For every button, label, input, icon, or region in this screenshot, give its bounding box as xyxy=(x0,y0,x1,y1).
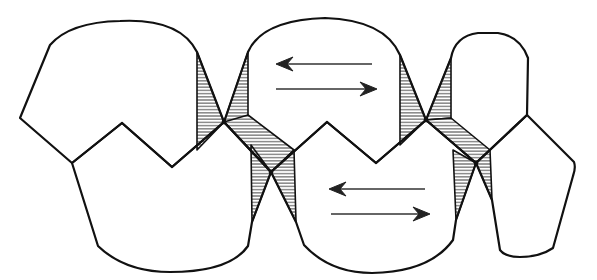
arrow-right xyxy=(276,82,377,96)
cell-lower-middle xyxy=(271,120,476,273)
junction-vertex xyxy=(474,161,479,166)
junction-left xyxy=(197,52,296,222)
hatched-wedge xyxy=(197,52,224,150)
junction-vertex xyxy=(222,120,227,125)
cell-upper-left xyxy=(20,21,224,167)
junction-vertex xyxy=(424,118,429,123)
arrow-left xyxy=(329,182,425,196)
arrow-pair-lower xyxy=(329,182,430,221)
cell-lower-left xyxy=(72,122,271,272)
arrow-pair-upper xyxy=(276,57,377,96)
cell-junction-diagram xyxy=(0,0,597,280)
arrow-right xyxy=(331,207,430,221)
arrow-left xyxy=(276,57,372,71)
junction-vertex xyxy=(269,170,274,175)
